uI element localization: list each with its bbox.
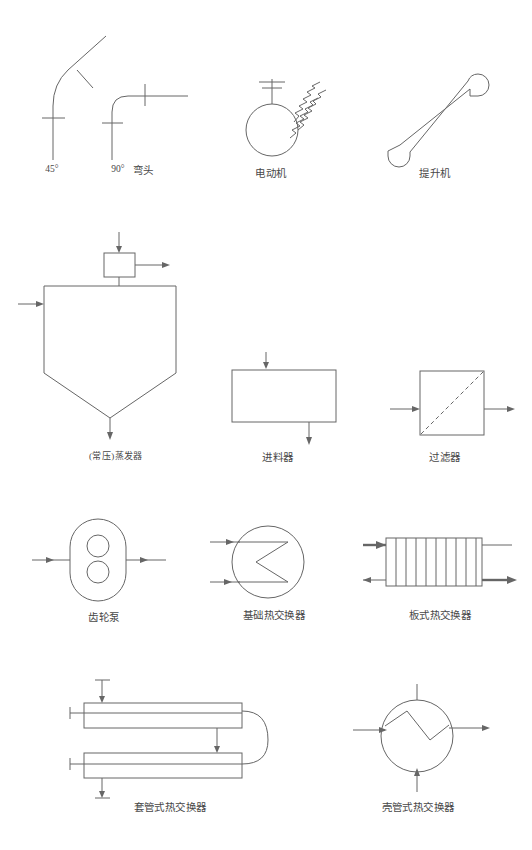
evaporator-icon [18,232,188,442]
caption-elbow-45: 45° [32,164,72,174]
caption-elbow-90: 90° [98,164,138,174]
plate-heat-exchanger-icon [360,530,520,605]
electric-motor-icon [240,68,350,168]
gear-pump-icon [28,514,178,606]
caption-shell-and-tube-heat-exchanger: 壳管式热交换器 [358,802,478,814]
elevator-hoist-icon [378,62,498,167]
feeder-icon [220,352,350,452]
pipe-elbow-90-icon [100,62,200,162]
caption-elbow-group: 弯头 [133,165,173,177]
filter-icon [388,366,518,446]
symbol-sheet: 45° 90° 弯头 电动机 [0,0,532,850]
caption-evaporator: (常压)蒸发器 [62,452,170,462]
caption-elevator-hoist: 提升机 [407,168,463,180]
double-pipe-heat-exchanger-icon [62,672,277,802]
caption-basic-heat-exchanger: 基础热交换器 [224,610,324,622]
caption-filter: 过滤器 [415,452,475,464]
caption-double-pipe-heat-exchanger: 套管式热交换器 [110,802,230,814]
caption-gear-pump: 齿轮泵 [76,612,132,624]
basic-heat-exchanger-icon [204,518,344,608]
caption-plate-heat-exchanger: 板式热交换器 [388,610,492,622]
caption-feeder: 进料器 [248,452,308,464]
caption-electric-motor: 电动机 [243,168,299,180]
shell-and-tube-heat-exchanger-icon [345,680,505,798]
